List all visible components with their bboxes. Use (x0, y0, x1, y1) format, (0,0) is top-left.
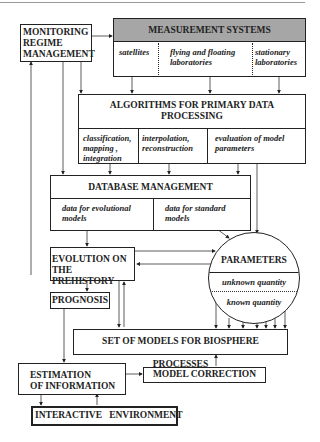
measurement-systems-box: MEASUREMENT SYSTEMS satellites flying an… (113, 18, 306, 77)
database-title: DATABASE MANAGEMENT (51, 176, 250, 199)
biosphere-models-box: SET OF MODELS FOR BIOSPHERE PROCESSES (73, 329, 288, 355)
evolution-prehistory-box: EVOLUTION ON THE PREHISTORY (50, 247, 135, 281)
measurement-title: MEASUREMENT SYSTEMS (114, 19, 305, 42)
database-col-evolutional: data for evolutional models (62, 203, 131, 223)
estimation-information-box: ESTIMATION OF INFORMATION (18, 363, 126, 395)
monitoring-line1: MONITORING (23, 27, 89, 38)
interactive-environment-box: INTERACTIVE ENVIRONMENT (31, 406, 178, 426)
parameters-unknown: unknown quantity (209, 277, 299, 287)
parameters-divider (209, 272, 299, 273)
algorithms-divider-1 (138, 129, 139, 164)
monitoring-regime-management-box: MONITORING REGIME MANAGEMENT (20, 24, 92, 62)
measurement-col-flying: flying and floating laboratories (170, 47, 235, 67)
parameters-title: PARAMETERS (209, 255, 299, 266)
algorithms-title: ALGORITHMS FOR PRIMARY DATA PROCESSING (79, 95, 305, 129)
prognosis-box: PROGNOSIS (50, 292, 110, 309)
parameters-circle: PARAMETERS unknown quantity known quanti… (208, 232, 300, 324)
algorithms-col-classification: classification, mapping , integration (83, 133, 131, 163)
monitoring-line3: MANAGEMENT (23, 49, 89, 60)
measurement-col-stationary: stationary laboratories (255, 47, 297, 67)
algorithms-box: ALGORITHMS FOR PRIMARY DATA PROCESSING c… (78, 94, 306, 164)
database-divider (153, 199, 154, 230)
measurement-divider-2 (252, 43, 253, 75)
database-col-standard: data for standard models (165, 203, 225, 223)
database-management-box: DATABASE MANAGEMENT data for evolutional… (50, 175, 251, 231)
algorithms-col-evaluation: evaluation of model parameters (215, 133, 284, 153)
parameters-known: known quantity (209, 297, 299, 307)
parameters-dotted-divider (209, 291, 299, 292)
measurement-col-satellites: satellites (119, 47, 149, 57)
measurement-divider-1 (158, 43, 159, 75)
monitoring-line2: REGIME (23, 38, 89, 49)
algorithms-divider-2 (207, 129, 208, 164)
model-correction-box: MODEL CORRECTION (143, 367, 266, 383)
algorithms-col-interpolation: interpolation, reconstruction (142, 133, 193, 153)
